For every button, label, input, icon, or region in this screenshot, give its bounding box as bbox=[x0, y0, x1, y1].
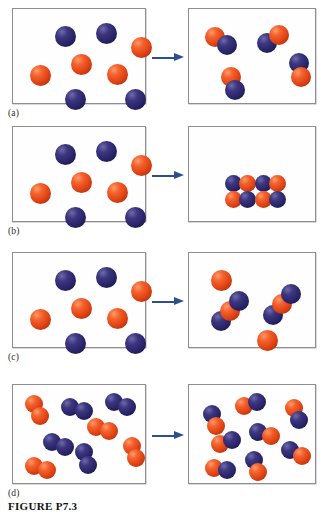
figure-caption: FIGURE P7.3 bbox=[8, 500, 77, 512]
red-atom bbox=[30, 65, 51, 86]
arrow-head-icon bbox=[174, 171, 184, 179]
panel-label-c: (c) bbox=[8, 352, 19, 362]
red-atom bbox=[131, 281, 152, 302]
panel-label-d: (d) bbox=[8, 488, 20, 498]
blue-atom bbox=[96, 141, 117, 162]
blue-atom bbox=[225, 80, 245, 100]
red-atom bbox=[257, 330, 278, 351]
arrow-shaft bbox=[152, 301, 176, 303]
red-atom bbox=[127, 449, 145, 467]
blue-atom bbox=[75, 402, 93, 420]
panel-label-b: (b) bbox=[8, 226, 20, 236]
red-atom bbox=[30, 183, 51, 204]
red-atom bbox=[131, 155, 152, 176]
blue-atom bbox=[218, 461, 236, 479]
blue-atom bbox=[248, 393, 266, 411]
arrow-head-icon bbox=[174, 53, 184, 61]
red-atom bbox=[107, 64, 128, 85]
blue-atom bbox=[79, 456, 97, 474]
red-atom bbox=[131, 37, 152, 58]
blue-atom bbox=[118, 398, 136, 416]
red-atom bbox=[30, 309, 51, 330]
red-atom bbox=[211, 270, 232, 291]
blue-atom bbox=[125, 333, 146, 354]
figure-p7-3: (a)(b)(c)(d)FIGURE P7.3 bbox=[0, 0, 328, 519]
red-atom bbox=[38, 461, 56, 479]
blue-atom bbox=[65, 207, 86, 228]
blue-atom bbox=[65, 333, 86, 354]
blue-atom bbox=[96, 23, 117, 44]
blue-atom bbox=[217, 35, 237, 55]
panel-a: (a) bbox=[0, 8, 328, 126]
blue-atom bbox=[55, 26, 76, 47]
blue-atom bbox=[239, 191, 256, 208]
red-atom bbox=[269, 175, 286, 192]
panel-label-a: (a) bbox=[8, 108, 19, 118]
red-atom bbox=[71, 54, 92, 75]
arrow-shaft bbox=[152, 435, 176, 437]
red-atom bbox=[291, 67, 311, 87]
product-box-b bbox=[188, 126, 316, 222]
arrow-shaft bbox=[152, 57, 176, 59]
product-box-d bbox=[188, 384, 316, 484]
blue-atom bbox=[125, 207, 146, 228]
panel-d: (d) bbox=[0, 384, 328, 506]
blue-atom bbox=[56, 438, 74, 456]
blue-atom bbox=[65, 89, 86, 110]
red-atom bbox=[71, 298, 92, 319]
blue-atom bbox=[55, 144, 76, 165]
red-atom bbox=[262, 427, 280, 445]
arrow-head-icon bbox=[174, 297, 184, 305]
reaction-arrow-b bbox=[152, 170, 186, 182]
blue-atom bbox=[125, 89, 146, 110]
red-atom bbox=[107, 308, 128, 329]
reaction-arrow-a bbox=[152, 52, 186, 64]
arrow-head-icon bbox=[174, 431, 184, 439]
blue-atom bbox=[290, 411, 308, 429]
blue-atom bbox=[269, 191, 286, 208]
red-atom bbox=[71, 172, 92, 193]
product-box-a bbox=[188, 8, 316, 104]
panel-c: (c) bbox=[0, 252, 328, 370]
red-atom bbox=[31, 407, 49, 425]
panel-b: (b) bbox=[0, 126, 328, 244]
red-atom bbox=[207, 417, 225, 435]
reactant-box-b bbox=[12, 126, 146, 222]
red-atom bbox=[293, 447, 311, 465]
blue-atom bbox=[55, 270, 76, 291]
product-box-c bbox=[188, 252, 316, 348]
reactant-box-c bbox=[12, 252, 146, 348]
reaction-arrow-c bbox=[152, 296, 186, 308]
red-atom bbox=[107, 182, 128, 203]
reactant-box-a bbox=[12, 8, 146, 104]
red-atom bbox=[100, 422, 118, 440]
red-atom bbox=[239, 175, 256, 192]
blue-atom bbox=[223, 431, 241, 449]
arrow-shaft bbox=[152, 175, 176, 177]
blue-atom bbox=[281, 284, 301, 304]
red-atom bbox=[249, 463, 267, 481]
reactant-box-d bbox=[12, 384, 146, 484]
blue-atom bbox=[229, 291, 249, 311]
reaction-arrow-d bbox=[152, 430, 186, 442]
blue-atom bbox=[96, 267, 117, 288]
red-atom bbox=[269, 25, 289, 45]
